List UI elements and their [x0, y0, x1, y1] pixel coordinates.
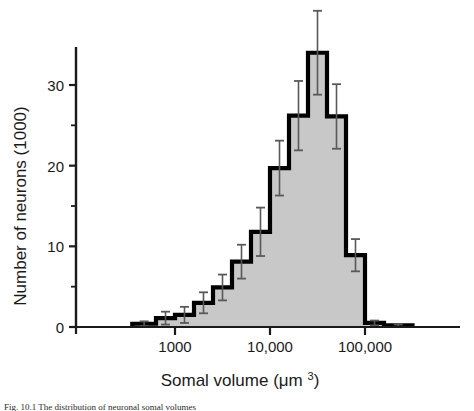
x-axis-title: Somal volume (μm 3) — [161, 370, 320, 390]
x-tick-label-10000: 10,000 — [247, 338, 293, 355]
y-tick-label-30: 30 — [47, 77, 64, 94]
histogram-fill — [132, 53, 412, 327]
x-axis-title-text: Somal volume (μm — [161, 371, 303, 390]
y-axis-title: Number of neurons (1000) — [11, 106, 30, 305]
figure-panel: Number of neurons (1000) 30 20 10 0 1000… — [0, 0, 474, 411]
x-axis-title-tail: ) — [314, 371, 320, 390]
y-tick-label-0: 0 — [56, 319, 64, 336]
figure-caption: Fig. 10.1 The distribution of neuronal s… — [4, 402, 304, 411]
x-tick-label-1000: 1000 — [158, 338, 191, 355]
x-tick-label-100000: 100,000 — [338, 338, 392, 355]
y-tick-label-20: 20 — [47, 158, 64, 175]
plot-area — [132, 11, 412, 327]
somal-volume-histogram: Number of neurons (1000) 30 20 10 0 1000… — [0, 0, 474, 411]
y-tick-label-10: 10 — [47, 238, 64, 255]
